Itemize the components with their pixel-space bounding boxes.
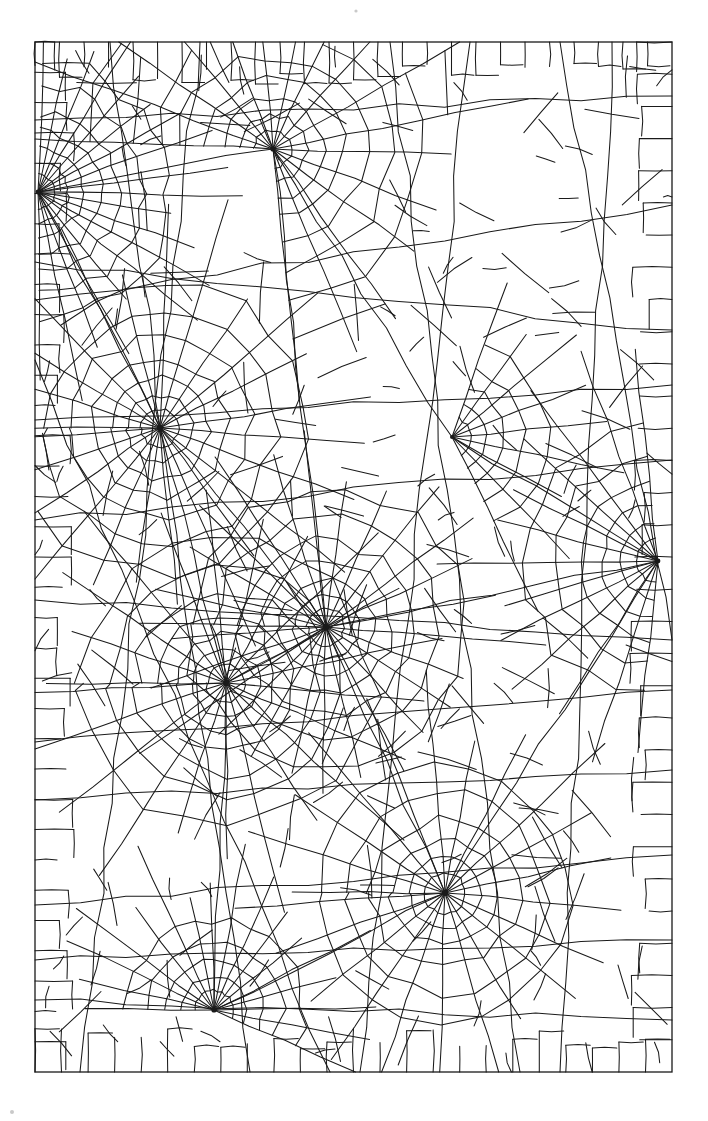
- hub-hub-center-spoke: [172, 627, 327, 639]
- rim-bottom-arc-20: [566, 1045, 591, 1046]
- hub-hub-lower-right-spoke: [276, 893, 445, 953]
- filler-chord-1: [35, 262, 672, 330]
- rim-bottom-tie-9: [274, 1039, 275, 1072]
- rim-top-arc-25: [648, 66, 671, 67]
- filler-rung-158: [410, 337, 424, 351]
- rim-top-arc-8: [231, 80, 254, 81]
- hub-hub-center-spoke: [292, 627, 326, 773]
- hub-hub-lower-right-spoke: [445, 858, 611, 893]
- filler-rung-101: [280, 829, 288, 868]
- filler-rung-22: [201, 1031, 220, 1042]
- filler-rung-180: [519, 808, 558, 813]
- hub-hub-mid-left-spoke: [160, 354, 306, 428]
- filler-rung-42: [92, 650, 133, 684]
- hub-hub-left-upper-spoke: [38, 192, 126, 299]
- rim-bottom-arc-18: [513, 1038, 537, 1039]
- speck-top: [354, 9, 357, 12]
- rim-right-tie-29: [631, 975, 672, 976]
- rim-bottom-tie-12: [353, 1028, 354, 1072]
- rim-top-arc-17: [452, 74, 475, 75]
- rim-top-tie-9: [255, 42, 256, 84]
- rim-right-arc-2: [642, 106, 643, 136]
- rim-right-tie-12: [638, 428, 672, 429]
- rim-top-tie-18: [475, 42, 476, 75]
- rim-bottom-tie-15: [433, 1030, 434, 1072]
- hub-hub-center-spoke: [326, 627, 361, 778]
- filler-rung-56: [663, 196, 672, 197]
- rim-bottom-arc-6: [194, 1045, 218, 1046]
- hub-hub-bottom-spoke: [214, 1010, 370, 1040]
- rim-right-arc-3: [639, 139, 640, 169]
- hub-hub-top-spoke: [273, 149, 396, 319]
- hub-hub-lower-right-spoke: [445, 893, 621, 910]
- rim-right-tie-14: [644, 493, 672, 494]
- rim-left-tie-28: [35, 890, 68, 891]
- hub-hub-bottom-spoke: [214, 931, 370, 1011]
- filler-rung-141: [141, 172, 147, 231]
- filler-rung-98: [240, 750, 282, 777]
- filler-rung-96: [494, 683, 513, 702]
- rim-top-tie-23: [598, 42, 599, 66]
- spider-web-illustration: [0, 0, 708, 1121]
- hub-hub-lower-right-spoke: [445, 735, 526, 893]
- hub-hub-center-spoke: [323, 627, 326, 793]
- rim-right-tie-8: [649, 298, 672, 299]
- filler-rung-66: [437, 258, 472, 283]
- filler-rung-102: [356, 971, 389, 989]
- filler-rung-2: [213, 391, 226, 407]
- filler-rung-43: [610, 366, 643, 407]
- filler-rung-171: [413, 231, 429, 232]
- rim-bottom-tie-11: [326, 1042, 327, 1072]
- rim-left-arc-25: [72, 799, 73, 827]
- hub-hub-bottom-spoke: [85, 1008, 214, 1010]
- hub-hub-center-spoke: [151, 627, 326, 688]
- filler-rung-63: [589, 731, 601, 764]
- hub-hub-center-spoke: [140, 623, 327, 627]
- filler-rung-70: [553, 312, 595, 314]
- rim-left-arc-3: [74, 133, 75, 161]
- filler-rung-75: [94, 869, 107, 890]
- filler-chord-15: [35, 999, 672, 1020]
- speck-bottom-left: [10, 1110, 14, 1114]
- filler-rung-169: [429, 488, 457, 525]
- filler-rung-122: [572, 790, 610, 836]
- rim-right-arc-14: [644, 493, 645, 523]
- thread-lowerright-to-bottom: [214, 893, 445, 1010]
- filler-rung-121: [550, 281, 579, 288]
- hub-hub-right-edge-spoke: [635, 349, 658, 561]
- filler-chord-4: [35, 855, 672, 905]
- rim-left-tie-20: [35, 648, 57, 649]
- filler-rung-15: [259, 262, 263, 323]
- filler-chord-6: [110, 42, 250, 1072]
- filler-rung-13: [427, 544, 469, 556]
- rim-right-tie-19: [630, 653, 672, 654]
- filler-rung-112: [438, 716, 471, 727]
- filler-rung-111: [151, 271, 209, 273]
- filler-rung-8: [596, 208, 616, 234]
- rim-top-tie-4: [133, 42, 134, 80]
- rim-top-tie-22: [574, 42, 575, 64]
- filler-rung-126: [45, 361, 50, 382]
- hub-hub-top-spoke: [273, 149, 436, 210]
- filler-rung-132: [141, 136, 161, 145]
- filler-rung-49: [231, 456, 283, 474]
- hub-hub-right-edge-spoke: [437, 561, 658, 564]
- hub-hub-lower-right-spoke: [445, 813, 591, 893]
- rim-top-arc-23: [599, 65, 622, 66]
- filler-rung-59: [657, 70, 672, 86]
- hub-hub-center-spoke: [156, 589, 327, 627]
- hub-hub-lower-right-spoke: [445, 893, 603, 963]
- filler-rung-159: [453, 362, 466, 376]
- filler-rung-74: [176, 1017, 183, 1042]
- filler-rung-14: [510, 753, 542, 765]
- rim-top-tie-14: [377, 42, 378, 77]
- filler-rung-99: [108, 882, 117, 925]
- rim-top-tie-2: [84, 42, 85, 67]
- filler-rung-28: [618, 965, 628, 998]
- rim-right-arc-0: [637, 42, 638, 72]
- hub-hub-top-ring: [289, 73, 423, 300]
- rim-top-tie-25: [648, 42, 649, 66]
- hub-hub-bottom-spoke: [214, 1010, 355, 1072]
- rim-right-arc-26: [645, 879, 646, 909]
- filler-rung-161: [418, 752, 476, 769]
